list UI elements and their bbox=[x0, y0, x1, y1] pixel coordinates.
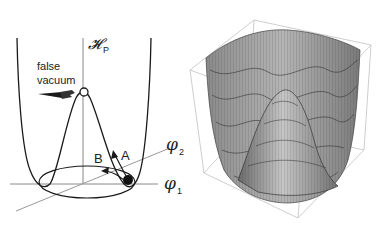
axis-label-phi2: φ2 bbox=[166, 136, 183, 153]
false-vacuum-label-line1: false bbox=[37, 61, 60, 72]
potential-schematic: 𝓗P false vacuum A B φ2 φ1 bbox=[0, 0, 190, 227]
true-vacuum-ball bbox=[123, 175, 133, 185]
path-b-line bbox=[106, 171, 124, 180]
surface-plot-drawing bbox=[188, 0, 378, 227]
false-vacuum-marker bbox=[80, 88, 88, 96]
axis-label-phi1: φ1 bbox=[164, 175, 181, 192]
path-a-label: A bbox=[121, 149, 130, 162]
surface-plot-3d bbox=[188, 0, 378, 227]
path-b-label: B bbox=[94, 152, 103, 165]
axis-label-hp: 𝓗P bbox=[88, 37, 108, 52]
path-b-arrowhead-icon bbox=[101, 167, 109, 174]
pointing-hand-icon bbox=[38, 90, 75, 99]
false-vacuum-label-line2: vacuum bbox=[37, 75, 76, 86]
